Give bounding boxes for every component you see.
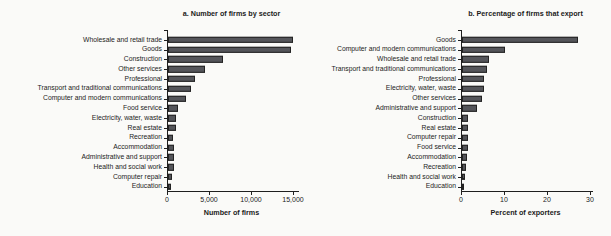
category-label: Other services <box>306 95 461 102</box>
chart-percentage-of-firms-that-export: b. Percentage of firms that export Goods… <box>306 0 611 236</box>
y-axis-tick <box>164 148 167 149</box>
y-axis-tick <box>458 108 461 109</box>
bar-track <box>461 94 590 104</box>
bar-row: Computer repair <box>0 172 306 182</box>
bar <box>462 46 505 52</box>
bar-track <box>167 55 296 65</box>
bar-row: Electricity, water, waste <box>0 113 306 123</box>
bar <box>168 56 223 62</box>
bar-track <box>461 45 590 55</box>
bar-row: Computer and modern communications <box>306 45 611 55</box>
chart-a-title: a. Number of firms by sector <box>167 10 296 19</box>
y-axis-tick <box>458 138 461 139</box>
bar-row: Professional <box>306 74 611 84</box>
x-axis-tick <box>167 192 168 195</box>
category-label: Goods <box>0 46 167 53</box>
category-label: Electricity, water, waste <box>0 115 167 122</box>
y-axis-tick <box>458 89 461 90</box>
category-label: Computer repair <box>306 134 461 141</box>
bar <box>462 144 468 150</box>
bar-track <box>461 84 590 94</box>
bar-track <box>167 74 296 84</box>
category-label: Transport and traditional communications <box>0 85 167 92</box>
y-axis-tick <box>164 157 167 158</box>
bar-track <box>461 143 590 153</box>
bar-row: Real estate <box>0 123 306 133</box>
bar-track <box>461 162 590 172</box>
bar-track <box>461 74 590 84</box>
category-label: Electricity, water, waste <box>306 85 461 92</box>
bar-row: Professional <box>0 74 306 84</box>
x-axis-tick <box>293 192 294 195</box>
y-axis-tick <box>164 128 167 129</box>
bar-row: Accommodation <box>306 153 611 163</box>
y-axis-tick <box>458 177 461 178</box>
bar-track <box>167 133 296 143</box>
y-axis-tick <box>458 187 461 188</box>
bar-row: Goods <box>306 35 611 45</box>
bar <box>168 125 176 131</box>
category-label: Computer and modern communications <box>306 46 461 53</box>
bar <box>168 76 195 82</box>
bar <box>168 66 205 72</box>
bar-track <box>167 94 296 104</box>
chart-number-of-firms-by-sector: a. Number of firms by sector Wholesale a… <box>0 0 306 236</box>
figure-canvas: a. Number of firms by sector Wholesale a… <box>0 0 611 236</box>
bar <box>168 184 171 190</box>
category-label: Education <box>0 183 167 190</box>
bar-row: Real estate <box>306 123 611 133</box>
bar-track <box>461 64 590 74</box>
y-axis-tick <box>458 157 461 158</box>
bar <box>168 154 174 160</box>
category-label: Computer repair <box>0 174 167 181</box>
y-axis-tick <box>458 59 461 60</box>
y-axis-tick <box>164 69 167 70</box>
y-axis-tick <box>458 99 461 100</box>
bar <box>168 115 176 121</box>
bar <box>462 174 465 180</box>
category-label: Education <box>306 183 461 190</box>
bar-row: Recreation <box>306 162 611 172</box>
category-label: Goods <box>306 37 461 44</box>
x-axis-tick-label: 15,000 <box>282 196 303 203</box>
bar-track <box>167 64 296 74</box>
y-axis-tick <box>458 69 461 70</box>
category-label: Accommodation <box>0 144 167 151</box>
category-label: Professional <box>306 76 461 83</box>
x-axis-tick-label: 5,000 <box>200 196 218 203</box>
y-axis-tick <box>458 148 461 149</box>
y-axis-tick <box>164 79 167 80</box>
bar <box>462 95 482 101</box>
bar-row: Construction <box>306 113 611 123</box>
y-axis-tick <box>164 50 167 51</box>
category-label: Health and social work <box>306 174 461 181</box>
bar <box>462 66 487 72</box>
bar <box>168 95 186 101</box>
bar-track <box>167 113 296 123</box>
bar-track <box>167 84 296 94</box>
bar-row: Electricity, water, waste <box>306 84 611 94</box>
bar <box>462 86 484 92</box>
bar <box>462 164 466 170</box>
bar <box>168 144 174 150</box>
bar-row: Other services <box>306 94 611 104</box>
bar <box>168 86 191 92</box>
bar-track <box>167 162 296 172</box>
y-axis-tick <box>164 177 167 178</box>
y-axis-tick <box>458 118 461 119</box>
x-axis-tick <box>590 192 591 195</box>
x-axis-tick <box>504 192 505 195</box>
bar-row: Health and social work <box>306 172 611 182</box>
category-label: Construction <box>306 115 461 122</box>
chart-b-plot-area: GoodsComputer and modern communicationsW… <box>306 35 611 192</box>
chart-a-y-axis-top-tick <box>164 30 167 31</box>
bar <box>462 115 468 121</box>
bar-track <box>167 104 296 114</box>
x-axis-tick-label: 10,000 <box>240 196 261 203</box>
chart-a-x-axis: 05,00010,00015,000 <box>167 191 299 192</box>
bar-row: Construction <box>0 55 306 65</box>
category-label: Accommodation <box>306 154 461 161</box>
bar <box>462 154 467 160</box>
y-axis-tick <box>164 99 167 100</box>
bar-row: Wholesale and retail trade <box>306 55 611 65</box>
